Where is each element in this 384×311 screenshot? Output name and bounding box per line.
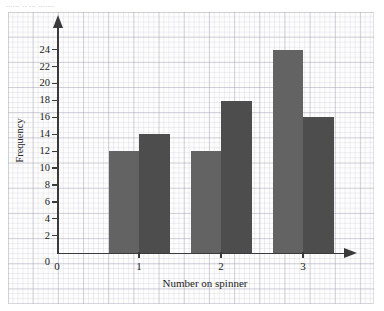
y-axis-tick xyxy=(52,49,58,50)
x-axis-tick-label: 3 xyxy=(288,261,318,272)
y-axis-tick xyxy=(52,184,58,185)
x-axis-tick-label: 2 xyxy=(206,261,236,272)
bar xyxy=(221,101,252,253)
y-axis-tick-label: 8 xyxy=(10,180,50,191)
y-axis-tick xyxy=(52,218,58,219)
y-axis-tick xyxy=(52,83,58,84)
y-axis-arrow-icon xyxy=(53,15,63,28)
y-axis-tick xyxy=(52,117,58,118)
x-axis-tick xyxy=(138,252,139,258)
y-axis-tick-label: 2 xyxy=(10,231,50,242)
x-axis-title: Number on spinner xyxy=(120,277,290,289)
x-axis-tick xyxy=(220,252,221,258)
x-axis-tick-label: 1 xyxy=(124,261,154,272)
y-axis-tick xyxy=(52,235,58,236)
bar xyxy=(109,151,140,252)
y-axis-tick-label: 18 xyxy=(10,95,50,106)
y-axis-tick-label: 6 xyxy=(10,197,50,208)
y-axis-tick-label: 20 xyxy=(10,78,50,89)
y-axis-line xyxy=(57,26,59,254)
bar xyxy=(191,151,222,252)
y-axis-tick-label: 22 xyxy=(10,62,50,73)
x-axis-arrow-icon xyxy=(344,248,357,258)
y-axis-tick xyxy=(52,151,58,152)
y-axis-tick-label: 24 xyxy=(10,45,50,56)
y-axis-title: Frequency xyxy=(14,106,25,176)
y-axis-tick xyxy=(52,66,58,67)
y-axis-tick-label: 4 xyxy=(10,214,50,225)
x-axis-tick xyxy=(302,252,303,258)
chart-screenshot: ...... .. ... ....... 246810121416182022… xyxy=(0,0,384,311)
bar xyxy=(303,117,334,252)
bar xyxy=(273,50,304,253)
y-axis-tick xyxy=(52,134,58,135)
y-axis-tick xyxy=(52,100,58,101)
y-axis-tick xyxy=(52,201,58,202)
x-axis-tick-label: 0 xyxy=(42,261,72,272)
bar xyxy=(139,134,170,252)
y-axis-tick xyxy=(52,167,58,168)
